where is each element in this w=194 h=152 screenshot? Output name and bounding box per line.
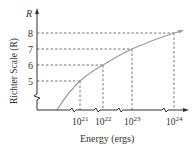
y-axis bbox=[34, 12, 40, 110]
x-tick-1e22: 1022 bbox=[95, 115, 112, 127]
guide-lines bbox=[37, 33, 174, 110]
x-tick-1e23: 1023 bbox=[124, 115, 141, 127]
y-symbol: R bbox=[25, 8, 32, 19]
x-axis-title: Energy (ergs) bbox=[80, 133, 134, 145]
y-tick-8: 8 bbox=[28, 28, 33, 39]
y-tick-6: 6 bbox=[28, 60, 33, 71]
x-axis-arrow-icon bbox=[183, 108, 189, 112]
y-axis-arrow-icon bbox=[35, 8, 39, 14]
richter-energy-chart: R 8 7 6 5 Richter Scale (R) 1021 1022 10… bbox=[0, 0, 194, 152]
x-tick-1e21: 1021 bbox=[72, 115, 89, 127]
data-curve bbox=[57, 31, 182, 110]
x-tick-1e24: 1024 bbox=[166, 115, 183, 127]
x-axis bbox=[37, 108, 184, 112]
y-tick-7: 7 bbox=[28, 44, 33, 55]
y-tick-5: 5 bbox=[28, 76, 33, 87]
y-axis-title: Richter Scale (R) bbox=[9, 38, 20, 104]
curve-arrow-icon bbox=[178, 30, 184, 34]
